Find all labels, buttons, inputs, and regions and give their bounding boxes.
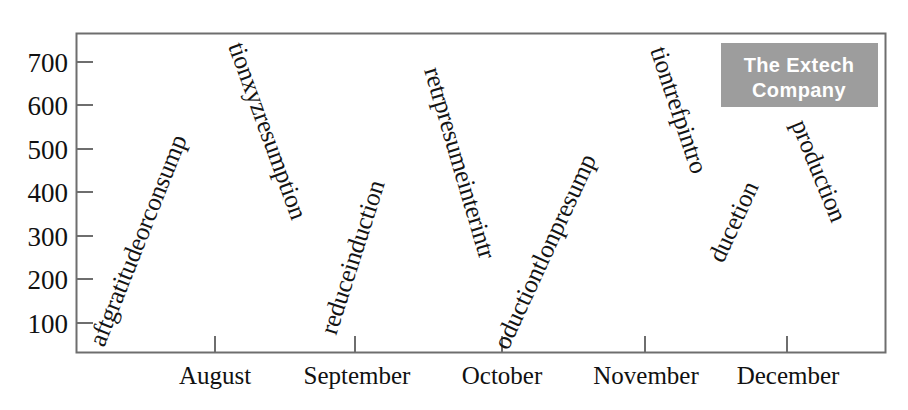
series-segment-3: reduceinduction xyxy=(314,176,391,338)
legend-label-line1: The Extech xyxy=(744,54,855,76)
series-segment-8: production xyxy=(785,115,853,226)
x-tick-november: November xyxy=(593,362,699,389)
series-segment-2: tionxyzresumption xyxy=(222,38,313,223)
legend: The Extech Company xyxy=(721,43,878,107)
x-tick-september: September xyxy=(304,362,412,389)
chart-container: 700 600 500 400 300 200 100 August Septe… xyxy=(0,0,908,410)
series-segment-4: retrpresumeinterintr xyxy=(418,64,502,263)
x-tick-december: December xyxy=(737,362,840,389)
y-tick-500: 500 xyxy=(28,135,69,165)
legend-label-line2: Company xyxy=(752,79,846,101)
y-axis-ticks xyxy=(77,62,93,323)
y-tick-400: 400 xyxy=(28,178,69,208)
series-segment-5: oductiontlonpresump xyxy=(487,150,602,354)
x-axis-labels: August September October November Decemb… xyxy=(179,362,840,389)
x-tick-october: October xyxy=(462,362,543,389)
series-segment-1: aftgratitudeorconsump xyxy=(83,131,193,351)
y-tick-200: 200 xyxy=(28,265,69,295)
y-axis-labels: 700 600 500 400 300 200 100 xyxy=(28,48,69,339)
series-segment-7: ducetion xyxy=(702,176,765,266)
y-tick-100: 100 xyxy=(28,309,69,339)
y-tick-300: 300 xyxy=(28,222,69,252)
series-segment-6: tiontrefpintro xyxy=(644,43,713,177)
y-tick-700: 700 xyxy=(28,48,69,78)
y-tick-600: 600 xyxy=(28,91,69,121)
x-tick-august: August xyxy=(179,362,251,389)
